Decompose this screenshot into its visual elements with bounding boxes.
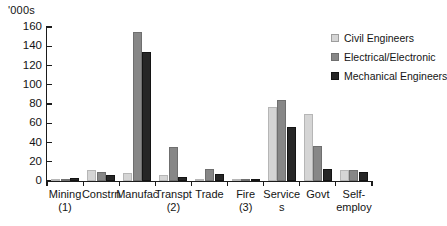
bar [123, 173, 132, 181]
x-axis-tick [46, 181, 47, 186]
y-axis-tick-label: 160 [2, 21, 42, 33]
y-axis-tick-label: 140 [2, 40, 42, 52]
bar [215, 174, 224, 181]
y-axis-tick-label: 60 [2, 117, 42, 129]
bar [178, 177, 187, 181]
y-axis-tick-label: 40 [2, 137, 42, 149]
legend-label-mechanical-engineers: Mechanical Engineers [344, 71, 447, 82]
bar [277, 100, 286, 181]
legend-swatch-icon-electrical-electronic [331, 53, 339, 61]
y-axis-tick-label: 100 [2, 79, 42, 91]
x-axis-tick [371, 181, 372, 186]
bar [51, 179, 60, 181]
plot-area [47, 27, 372, 181]
y-axis-unit-label: '000s [8, 4, 35, 16]
x-axis-tick [119, 181, 120, 186]
legend-label-civil-engineers: Civil Engineers [344, 33, 414, 44]
x-axis-tick [83, 181, 84, 186]
bar [304, 114, 313, 181]
x-axis-tick [155, 181, 156, 186]
bar [251, 179, 260, 181]
bar-group [51, 27, 79, 181]
x-axis-tick [227, 181, 228, 186]
bar-group [123, 27, 151, 181]
bar [205, 169, 214, 181]
bar [340, 170, 349, 181]
bar [97, 172, 106, 181]
bar [349, 170, 358, 181]
bar [268, 107, 277, 181]
bar-group [304, 27, 332, 181]
legend-swatch-icon-mechanical-engineers [331, 72, 339, 80]
chart-legend: Civil Engineers Electrical/Electronic Me… [331, 29, 435, 86]
x-axis-category-label: Self-employ [330, 188, 378, 214]
bar [159, 175, 168, 181]
bar [232, 179, 241, 181]
bar [106, 175, 115, 181]
bar [87, 170, 96, 181]
bar-group [195, 27, 223, 181]
y-axis-tick-label: 120 [2, 60, 42, 72]
bar [61, 179, 70, 181]
bar-group [87, 27, 115, 181]
legend-label-electrical-electronic: Electrical/Electronic [344, 52, 436, 63]
bar [169, 147, 178, 181]
x-axis-tick [263, 181, 264, 186]
bar [313, 146, 322, 181]
bar [241, 179, 250, 181]
bar [195, 179, 204, 181]
bar [70, 178, 79, 181]
y-axis-tick-label: 20 [2, 156, 42, 168]
bar [323, 169, 332, 182]
legend-swatch-icon-civil-engineers [331, 34, 339, 42]
legend-item-mechanical-engineers: Mechanical Engineers [331, 67, 435, 85]
bar-group [232, 27, 260, 181]
bar [133, 32, 142, 181]
x-axis-tick [191, 181, 192, 186]
y-axis-tick-label: 0 [2, 175, 42, 187]
y-axis-tick-label: 80 [2, 98, 42, 110]
x-axis-tick [335, 181, 336, 186]
legend-item-civil-engineers: Civil Engineers [331, 29, 435, 47]
x-axis-tick [299, 181, 300, 186]
bar-group [268, 27, 296, 181]
bar [359, 172, 368, 181]
bar [287, 127, 296, 181]
bar-group [159, 27, 187, 181]
bar [142, 52, 151, 181]
legend-item-electrical-electronic: Electrical/Electronic [331, 48, 435, 66]
